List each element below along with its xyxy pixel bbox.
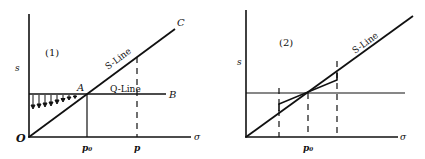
panel-2-tick-p0-label: p₀	[303, 143, 313, 153]
panel-2-y-axis-label: s	[237, 57, 242, 67]
panel-1-point-c-label: C	[177, 17, 185, 28]
panel-2-number-label: (2)	[279, 37, 293, 48]
panel-2-s-line	[246, 16, 413, 137]
panel-1-tick-p-label: p	[134, 143, 141, 153]
panel-1-y-axis-label: s	[15, 63, 20, 73]
panel-2: (2) s σ S-Line p₀	[237, 10, 413, 153]
panel-1-point-a-label: A	[76, 82, 84, 93]
panel-1-s-line-label: S-Line	[103, 46, 133, 72]
diagram-canvas: (1) s σ O A B C Q-Line S-Line p₀ p (2) s…	[0, 0, 425, 159]
panel-1-point-b-label: B	[168, 89, 176, 100]
panel-1-origin-label: O	[16, 132, 26, 145]
panel-1-number-label: (1)	[45, 47, 59, 58]
panel-1: (1) s σ O A B C Q-Line S-Line p₀ p	[15, 14, 201, 153]
panel-1-q-line-label: Q-Line	[110, 84, 141, 94]
panel-1-x-axis-label: σ	[194, 132, 201, 142]
panel-2-x-axis-label: σ	[400, 132, 407, 142]
panel-1-s-line	[29, 29, 175, 137]
panel-1-tick-p0-label: p₀	[82, 143, 92, 153]
